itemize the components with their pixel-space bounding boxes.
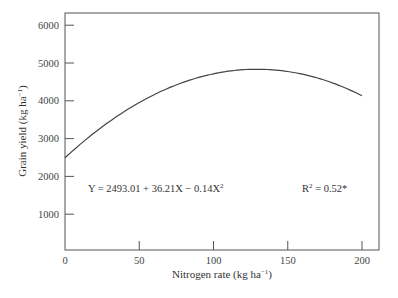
y-axis-title: Grain yield (kg ha−1)	[16, 85, 29, 177]
chart: 100020003000400050006000 050100150200 Y …	[0, 0, 398, 298]
x-axis-title: Nitrogen rate (kg ha−1)	[172, 268, 272, 281]
quadratic-fit-curve	[65, 69, 362, 158]
y-tick-label: 5000	[38, 58, 59, 69]
x-tick-label: 0	[62, 255, 67, 266]
y-tick-label: 6000	[38, 20, 59, 31]
x-tick-label: 150	[280, 255, 296, 266]
x-tick-label: 200	[354, 255, 370, 266]
r-squared-annotation: R2 = 0.52*	[302, 182, 347, 194]
y-tick-label: 4000	[38, 95, 59, 106]
y-tick-label: 2000	[38, 171, 59, 182]
x-tick-label: 50	[134, 255, 145, 266]
x-tick-label: 100	[206, 255, 222, 266]
y-tick-label: 1000	[38, 209, 59, 220]
plot-frame	[65, 13, 379, 250]
y-axis-ticks: 100020003000400050006000	[38, 20, 74, 220]
x-axis-ticks: 050100150200	[62, 241, 370, 266]
equation-annotation: Y = 2493.01 + 36.21X − 0.14X2	[88, 182, 224, 194]
y-tick-label: 3000	[38, 133, 59, 144]
